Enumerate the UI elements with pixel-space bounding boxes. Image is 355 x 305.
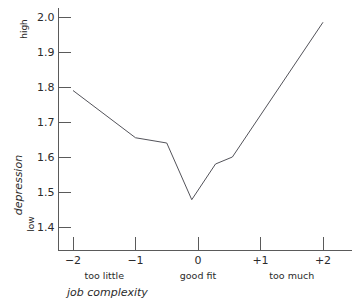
x-tick-label: −1 (127, 254, 143, 267)
data-series-line (73, 22, 323, 199)
x-tick-labels-group: −2−10+1+2 (65, 254, 331, 267)
y-tick-label: 1.8 (37, 81, 55, 94)
x-category-label: too little (84, 270, 124, 281)
y-tick-label: 1.7 (37, 116, 55, 129)
y-axis-low-label: low (26, 216, 36, 231)
y-tick-label: 1.6 (37, 151, 55, 164)
x-tick-label: +1 (252, 254, 268, 267)
y-axis-title: depression (12, 155, 25, 215)
x-tick-label: −2 (65, 254, 81, 267)
y-tick-labels-group: 1.41.51.61.71.81.92.0 (37, 11, 55, 234)
x-tick-label: 0 (195, 254, 202, 267)
x-category-label: too much (269, 270, 314, 281)
x-category-labels-group: too littlegood fittoo much (84, 270, 314, 281)
x-axis-title: job complexity (65, 286, 148, 299)
x-category-label: good fit (180, 270, 217, 281)
data-series-group (73, 22, 323, 199)
y-tick-label: 1.4 (37, 221, 55, 234)
y-axis-high-label: high (19, 19, 29, 39)
tick-marks-group (59, 17, 324, 251)
y-tick-label: 2.0 (37, 11, 55, 24)
x-tick-label: +2 (315, 254, 331, 267)
chart-container: 1.41.51.61.71.81.92.0 −2−10+1+2 too litt… (0, 0, 355, 305)
y-tick-label: 1.5 (37, 186, 55, 199)
line-chart-figure: 1.41.51.61.71.81.92.0 −2−10+1+2 too litt… (0, 0, 355, 305)
y-tick-label: 1.9 (37, 46, 55, 59)
